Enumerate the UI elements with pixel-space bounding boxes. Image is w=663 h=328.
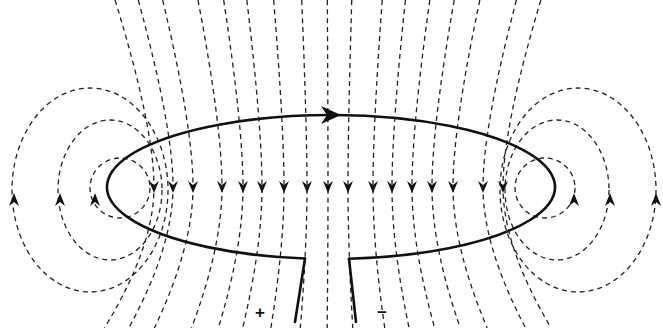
field-line xyxy=(154,0,193,328)
inner-field-lines xyxy=(104,0,551,328)
arrow-down-icon xyxy=(149,181,159,193)
arrow-down-icon xyxy=(168,181,178,193)
field-line xyxy=(412,0,435,328)
field-line xyxy=(432,0,460,328)
field-line xyxy=(191,0,222,328)
current-loop-wire xyxy=(107,106,555,322)
field-line xyxy=(453,0,487,328)
field-line xyxy=(392,0,409,328)
field-line xyxy=(271,0,284,328)
arrow-up-icon xyxy=(9,193,19,206)
field-loop-right xyxy=(500,88,656,292)
field-line xyxy=(129,0,173,328)
field-loop-left xyxy=(90,158,150,218)
arrow-down-icon xyxy=(478,181,488,193)
side-field-loops xyxy=(12,88,656,292)
plus-terminal-label: + xyxy=(255,303,265,322)
field-line xyxy=(327,0,328,328)
arrow-up-icon xyxy=(651,193,661,206)
arrow-up-icon xyxy=(55,193,65,206)
right-lead-wire xyxy=(349,259,356,322)
field-line xyxy=(373,0,385,328)
field-line xyxy=(483,0,526,328)
arrow-up-icon xyxy=(569,193,579,206)
current-loop-field-diagram: + − xyxy=(0,0,663,328)
field-loop-right xyxy=(505,120,609,260)
arrow-up-icon xyxy=(605,193,615,206)
field-line xyxy=(218,0,243,328)
minus-terminal-label: − xyxy=(377,303,387,322)
field-line xyxy=(243,0,262,328)
arrow-down-icon xyxy=(188,181,198,193)
